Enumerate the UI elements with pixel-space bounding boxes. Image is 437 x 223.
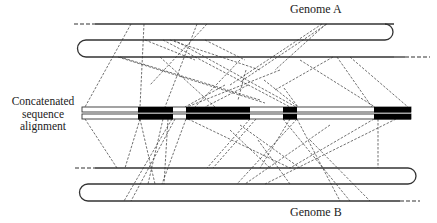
- aligned-block: [186, 107, 250, 113]
- homology-link: [275, 24, 326, 70]
- homology-link: [162, 119, 186, 184]
- homology-link: [207, 119, 250, 168]
- homology-link: [283, 119, 350, 201]
- aligned-block: [186, 114, 250, 120]
- alignment-label: Concatenated sequence alignment: [4, 95, 82, 133]
- homology-diagram: Genome A Genome B Concatenated sequence …: [0, 0, 437, 223]
- genome-a-chromosomes: [74, 24, 430, 57]
- aligned-block: [138, 107, 173, 113]
- homology-link: [195, 60, 240, 107]
- homology-link: [237, 119, 297, 184]
- homology-link: [174, 40, 296, 107]
- homology-link: [230, 24, 322, 85]
- aligned-block: [283, 107, 297, 113]
- homology-link: [124, 119, 172, 201]
- homology-link: [164, 119, 168, 184]
- homology-link: [240, 125, 300, 168]
- homology-link: [213, 119, 256, 168]
- genome-a-label: Genome A: [290, 3, 342, 16]
- aligned-block: [374, 114, 411, 120]
- homology-link: [187, 70, 280, 107]
- homology-link: [85, 119, 117, 168]
- homology-link: [170, 40, 260, 70]
- aligned-block: [374, 107, 411, 113]
- concatenated-alignment-bar: [82, 107, 411, 120]
- homology-link: [85, 24, 131, 107]
- homology-link: [125, 119, 140, 168]
- homology-link: [300, 60, 375, 107]
- homology-link: [310, 140, 370, 201]
- homology-link: [265, 119, 396, 184]
- homology-link: [120, 57, 260, 100]
- genome-b-chromosome-2: [80, 168, 417, 201]
- genome-b-label: Genome B: [290, 206, 342, 219]
- homology-link: [245, 125, 330, 184]
- homology-link: [350, 57, 408, 107]
- genome-a-chromosome-2: [78, 24, 395, 57]
- homology-link: [150, 24, 207, 85]
- homology-link: [140, 24, 144, 107]
- homology-link: [148, 119, 163, 184]
- homology-link: [240, 24, 327, 82]
- homology-link: [290, 119, 374, 168]
- homology-link: [258, 140, 290, 184]
- homology-link: [337, 57, 372, 107]
- homology-link: [264, 80, 298, 107]
- aligned-block: [283, 114, 297, 120]
- homology-link: [131, 119, 175, 201]
- aligned-block: [138, 114, 173, 120]
